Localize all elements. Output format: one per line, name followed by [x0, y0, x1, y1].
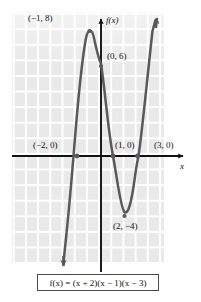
- point-local-min: [122, 214, 126, 218]
- label-local-min: (2, −4): [113, 222, 138, 231]
- point-y-intercept: [99, 64, 103, 68]
- formula-text: f(x) = (x + 2)(x − 1)(x − 3): [50, 278, 147, 288]
- graph-figure: (−1, 8) (0, 6) (−2, 0) (1, 0) (3, 0) (2,…: [0, 0, 201, 302]
- formula-box: f(x) = (x + 2)(x − 1)(x − 3): [37, 274, 159, 291]
- curve-arrow-up: [156, 18, 157, 28]
- label-y-intercept: (0, 6): [107, 52, 127, 61]
- y-axis-label: f(x): [106, 15, 119, 25]
- label-local-max: (−1, 8): [28, 14, 53, 23]
- point-local-max: [87, 29, 91, 33]
- label-root-mid: (1, 0): [115, 141, 135, 150]
- point-root-right: [135, 154, 140, 159]
- plot-canvas: [0, 0, 201, 302]
- x-axis-label: x: [180, 161, 184, 171]
- point-root-left: [75, 154, 80, 159]
- label-root-left: (−2, 0): [33, 141, 58, 150]
- label-root-right: (3, 0): [154, 141, 174, 150]
- point-root-mid: [111, 154, 116, 159]
